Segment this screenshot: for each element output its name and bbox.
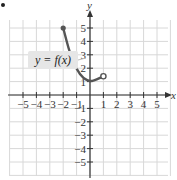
y-tick-label: −1 xyxy=(74,102,86,114)
x-tick-label: −5 xyxy=(17,98,29,110)
x-tick-label: 5 xyxy=(154,98,160,110)
y-tick-label: 5 xyxy=(81,22,87,34)
y-tick-label: 4 xyxy=(81,35,87,47)
function-label-text: y = f(x) xyxy=(34,53,71,67)
x-tick-label: 4 xyxy=(141,98,147,110)
function-graph: −5−4−3−2−112345−5−4−3−2−112345 y = f(x) … xyxy=(0,0,177,180)
y-tick-label: −4 xyxy=(74,143,86,155)
open-endpoint-marker xyxy=(101,74,106,79)
x-tick-label: −2 xyxy=(57,98,69,110)
x-tick-label: −4 xyxy=(31,98,43,110)
y-tick-label: 2 xyxy=(81,62,87,74)
axes xyxy=(8,10,172,178)
y-tick-label: −3 xyxy=(74,129,86,141)
closed-endpoint-marker xyxy=(61,25,66,30)
x-tick-label: −3 xyxy=(44,98,56,110)
y-tick-label: −2 xyxy=(74,116,86,128)
x-axis-label: x xyxy=(170,89,176,101)
x-tick-label: 3 xyxy=(127,98,133,110)
x-tick-label: 1 xyxy=(101,98,107,110)
y-axis-arrow-icon xyxy=(87,10,93,17)
function-label: y = f(x) xyxy=(28,51,86,69)
y-tick-label: −5 xyxy=(74,156,86,168)
x-tick-label: 2 xyxy=(114,98,120,110)
y-axis-label: y xyxy=(86,0,92,11)
